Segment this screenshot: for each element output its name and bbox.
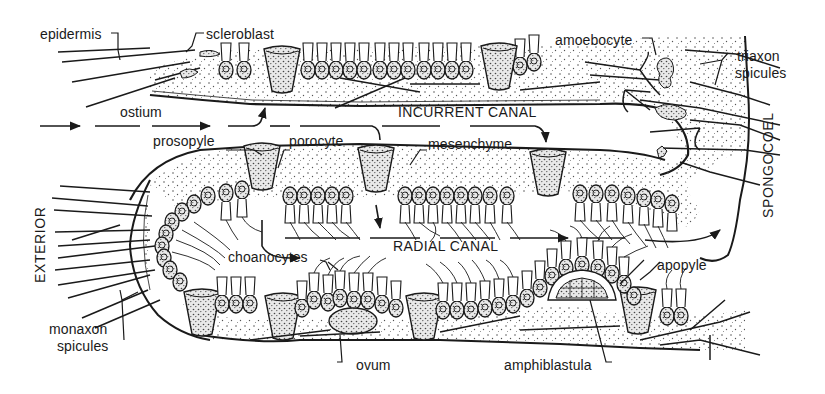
diagram-artwork: [0, 0, 825, 394]
label-prosopyle: prosopyle: [153, 134, 215, 148]
label-amoebocyte: amoebocyte: [555, 33, 632, 47]
label-ostium: ostium: [120, 105, 162, 119]
label-choanocytes: choanocytes: [228, 250, 308, 264]
label-apopyle: apopyle: [657, 258, 707, 272]
ovum-cell: [329, 308, 377, 334]
label-porocyte: porocyte: [289, 134, 344, 148]
label-radial-canal: RADIAL CANAL: [393, 239, 498, 253]
label-incurrent-canal: INCURRENT CANAL: [398, 105, 537, 119]
label-monaxon-spicules-line2: spicules: [57, 339, 108, 353]
label-mesenchyme: mesenchyme: [428, 137, 512, 151]
label-triaxon-spicules-line1: triaxon: [737, 49, 780, 63]
label-exterior: EXTERIOR: [32, 207, 48, 283]
choanocyte-row-middle: [219, 181, 679, 231]
sponge-wall-diagram: epidermis scleroblast amoebocyte triaxon…: [0, 0, 825, 394]
monaxon-spicules-left: [52, 186, 160, 328]
label-monaxon-spicules-line1: monaxon: [49, 322, 107, 336]
label-triaxon-spicules-line2: spicules: [735, 66, 786, 80]
label-amphiblastula: amphiblastula: [504, 358, 592, 372]
label-epidermis: epidermis: [40, 27, 102, 41]
label-ovum: ovum: [356, 358, 391, 372]
label-spongocoel: SPONGOCOEL: [760, 112, 776, 218]
label-scleroblast: scleroblast: [206, 27, 274, 41]
